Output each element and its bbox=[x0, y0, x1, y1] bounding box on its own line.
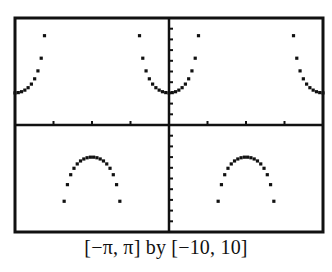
plot-point bbox=[194, 57, 197, 60]
plot-point bbox=[85, 156, 88, 159]
plot-point bbox=[256, 159, 259, 162]
plot-point bbox=[167, 91, 170, 94]
plot-point bbox=[223, 173, 226, 176]
plot-point bbox=[295, 57, 298, 60]
plot-point bbox=[292, 34, 295, 37]
plot-point bbox=[63, 200, 66, 203]
plot-point bbox=[144, 69, 147, 72]
plot-point bbox=[312, 89, 315, 92]
plot-point bbox=[305, 82, 308, 85]
plot-point bbox=[138, 34, 141, 37]
plot-point bbox=[181, 86, 184, 89]
plot-point bbox=[269, 183, 272, 186]
plot-point bbox=[315, 90, 318, 93]
plot-point bbox=[118, 200, 121, 203]
plot-point bbox=[220, 183, 223, 186]
plot-point bbox=[233, 159, 236, 162]
plot-point bbox=[36, 69, 39, 72]
plot-point bbox=[230, 162, 233, 165]
plot-point bbox=[102, 159, 105, 162]
plot-point bbox=[308, 86, 311, 89]
axes bbox=[15, 18, 323, 232]
plot-point bbox=[17, 91, 20, 94]
plot-point bbox=[79, 159, 82, 162]
plot-point bbox=[318, 91, 321, 94]
plot-point bbox=[20, 90, 23, 93]
plot-point bbox=[249, 156, 252, 159]
plot-point bbox=[115, 183, 118, 186]
plot-point bbox=[27, 86, 30, 89]
plot-point bbox=[89, 156, 92, 159]
plot-point bbox=[105, 162, 108, 165]
plot-point bbox=[30, 82, 33, 85]
plot-point bbox=[302, 77, 305, 80]
plot-point bbox=[33, 77, 36, 80]
graph-screen bbox=[0, 0, 332, 272]
plot-point bbox=[69, 173, 72, 176]
plot-point bbox=[66, 183, 69, 186]
plot-point bbox=[108, 167, 111, 170]
plot-point bbox=[164, 91, 167, 94]
plot-point bbox=[82, 157, 85, 160]
plot-point bbox=[148, 77, 151, 80]
plot-point bbox=[99, 157, 102, 160]
plot-point bbox=[141, 57, 144, 60]
plot-point bbox=[243, 156, 246, 159]
plot-point bbox=[184, 82, 187, 85]
plot-point bbox=[239, 156, 242, 159]
plot-point bbox=[298, 69, 301, 72]
plot-point bbox=[112, 173, 115, 176]
plot-point bbox=[154, 86, 157, 89]
plot-point bbox=[272, 200, 275, 203]
plot-point bbox=[190, 69, 193, 72]
plot-point bbox=[321, 91, 324, 94]
plot-point bbox=[158, 89, 161, 92]
plot-point bbox=[76, 162, 79, 165]
plot-point bbox=[40, 57, 43, 60]
plot-point bbox=[177, 89, 180, 92]
plot-point bbox=[226, 167, 229, 170]
plot-point bbox=[217, 200, 220, 203]
plot-point bbox=[72, 167, 75, 170]
plot-point bbox=[92, 156, 95, 159]
plot-point bbox=[151, 82, 154, 85]
plot-point bbox=[187, 77, 190, 80]
plot-point bbox=[236, 157, 239, 160]
plot-point bbox=[95, 156, 98, 159]
plot-point bbox=[266, 173, 269, 176]
plot-point bbox=[197, 34, 200, 37]
plot-point bbox=[259, 162, 262, 165]
plot-point bbox=[174, 90, 177, 93]
plot-point bbox=[246, 156, 249, 159]
window-caption: [−π, π] by [−10, 10] bbox=[0, 236, 332, 259]
plot-point bbox=[23, 89, 26, 92]
plot-point bbox=[253, 157, 256, 160]
plot-point bbox=[262, 167, 265, 170]
plot-point bbox=[43, 34, 46, 37]
plot-point bbox=[161, 90, 164, 93]
plot-point bbox=[171, 91, 174, 94]
plot-point bbox=[13, 91, 16, 94]
